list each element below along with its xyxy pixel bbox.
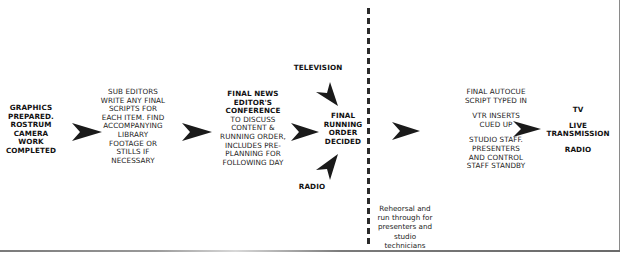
frame-right-border bbox=[619, 0, 620, 251]
node-sub-editors-line: NECESSARY bbox=[100, 157, 166, 166]
arrowhead-right-icon bbox=[72, 123, 102, 141]
node-conference: FINAL NEWS EDITOR'S CONFERENCE TO DISCUS… bbox=[216, 90, 290, 167]
node-rehearsal-line: studio bbox=[372, 232, 438, 241]
node-conference-body: FOLLOWING DAY bbox=[216, 159, 290, 168]
frame-bottom-border bbox=[0, 250, 620, 252]
arrowhead-right-icon bbox=[291, 123, 319, 141]
label-television: TELEVISION bbox=[290, 64, 346, 73]
label-television-text: TELEVISION bbox=[290, 64, 346, 73]
node-rehearsal-line: run through for bbox=[372, 213, 438, 222]
node-rehearsal: Reheorsal and run through for presenters… bbox=[372, 204, 438, 250]
arrowhead-right-icon bbox=[392, 122, 420, 140]
arrowhead-right-icon bbox=[513, 121, 541, 137]
node-rehearsal-line: presenters and bbox=[372, 222, 438, 231]
arrowhead-right-icon bbox=[182, 123, 212, 141]
node-transmission: TV LIVE TRANSMISSION RADIO bbox=[543, 106, 613, 154]
node-autocue-line: STAFF STANDBY bbox=[460, 162, 532, 171]
arrowhead-up-right-icon bbox=[316, 154, 342, 180]
node-transmission-radio: RADIO bbox=[543, 146, 613, 155]
node-graphics-line: COMPLETED bbox=[2, 147, 60, 156]
node-rehearsal-line: Reheorsal and bbox=[372, 204, 438, 213]
node-running-order-line: DECIDED bbox=[318, 138, 368, 147]
node-transmission-tv: TV bbox=[543, 106, 613, 115]
node-transmission-live: TRANSMISSION bbox=[543, 130, 613, 139]
node-rehearsal-line: technicians bbox=[372, 241, 438, 250]
label-radio-input-text: RADIO bbox=[294, 183, 330, 192]
node-running-order: FINAL RUNNING ORDER DECIDED bbox=[318, 112, 368, 146]
arrowhead-down-right-icon bbox=[316, 82, 342, 108]
node-graphics: GRAPHICS PREPARED. ROSTRUM CAMERA WORK C… bbox=[2, 104, 60, 156]
label-radio-input: RADIO bbox=[294, 183, 330, 192]
node-sub-editors: SUB EDITORS WRITE ANY FINAL SCRIPTS FOR … bbox=[100, 88, 166, 165]
node-autocue-line: SCRIPT TYPED IN bbox=[460, 97, 532, 106]
